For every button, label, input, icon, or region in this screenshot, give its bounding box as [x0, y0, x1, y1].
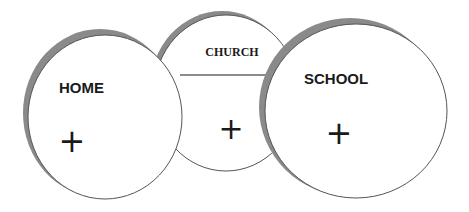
school-circle: SCHOOL +	[259, 18, 447, 198]
church-plus-icon: +	[218, 111, 243, 146]
school-label: SCHOOL	[304, 70, 368, 87]
home-plus-icon: +	[59, 122, 86, 160]
church-label: CHURCH	[205, 45, 259, 59]
school-body	[265, 24, 447, 198]
home-body	[28, 35, 182, 199]
home-label: HOME	[59, 79, 104, 96]
school-plus-icon: +	[326, 114, 353, 152]
three-circles-diagram: CHURCH + HOME + SCHOOL +	[0, 0, 469, 212]
